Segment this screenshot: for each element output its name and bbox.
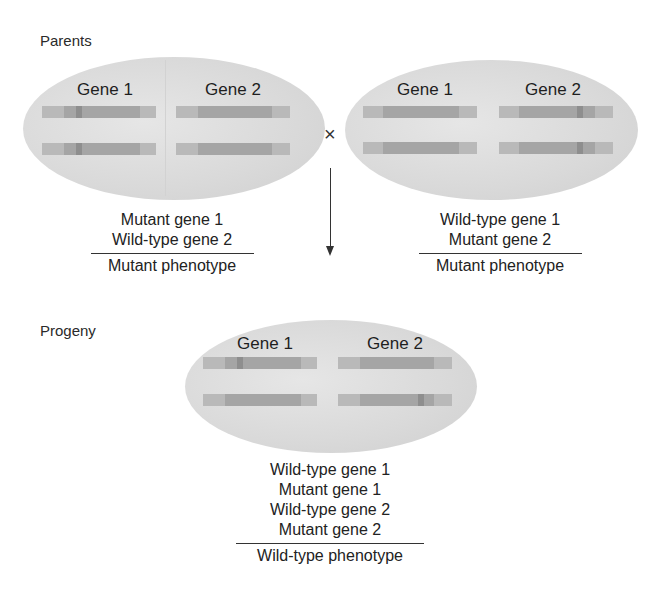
parent-1-gene-1-title: Gene 1	[50, 80, 160, 100]
genotype-line: Mutant gene 2	[414, 230, 586, 250]
genotype-line: Mutant gene 1	[86, 210, 258, 230]
mutation-mark	[76, 143, 82, 155]
parent-1-gene-1-chromosome-a	[42, 106, 156, 118]
phenotype: Mutant phenotype	[414, 256, 586, 276]
progeny-gene-1-title: Gene 1	[210, 334, 320, 354]
cross-symbol: ×	[324, 123, 336, 146]
genotype-line: Wild-type gene 1	[414, 210, 586, 230]
parent-1-genotype: Mutant gene 1 Wild-type gene 2 Mutant ph…	[86, 210, 258, 276]
progeny-gene-2-chromosome-a	[338, 357, 452, 369]
parents-label: Parents	[40, 32, 92, 49]
parent-1-gene-1-chromosome-b	[42, 143, 156, 155]
parent-2-genotype: Wild-type gene 1 Mutant gene 2 Mutant ph…	[414, 210, 586, 276]
parent-1-gene-2-chromosome-a	[176, 106, 290, 118]
parent-1-divider	[165, 60, 166, 196]
genotype-line: Mutant gene 2	[230, 520, 430, 540]
parent-2-gene-2-chromosome-a	[499, 106, 613, 118]
mutation-mark	[76, 106, 82, 118]
mutation-mark	[577, 142, 583, 154]
parent-2-gene-1-chromosome-a	[363, 106, 477, 118]
parent-1-cell	[23, 57, 325, 200]
arrow-down-icon	[326, 246, 334, 256]
parent-1-gene-2-title: Gene 2	[178, 80, 288, 100]
parent-2-gene-1-title: Gene 1	[370, 80, 480, 100]
progeny-genotype: Wild-type gene 1 Mutant gene 1 Wild-type…	[230, 460, 430, 566]
mutation-mark	[418, 394, 424, 406]
genotype-line: Mutant gene 1	[230, 480, 430, 500]
progeny-gene-1-chromosome-a	[203, 357, 317, 369]
mutation-mark	[577, 106, 583, 118]
arrow-line	[330, 168, 331, 248]
genotype-line: Wild-type gene 1	[230, 460, 430, 480]
progeny-gene-2-chromosome-b	[338, 394, 452, 406]
fraction-rule	[91, 253, 254, 254]
mutation-mark	[237, 357, 243, 369]
phenotype: Wild-type phenotype	[230, 546, 430, 566]
fraction-rule	[419, 253, 582, 254]
parent-2-gene-2-chromosome-b	[499, 142, 613, 154]
phenotype: Mutant phenotype	[86, 256, 258, 276]
genotype-line: Wild-type gene 2	[230, 500, 430, 520]
parent-2-gene-2-title: Gene 2	[498, 80, 608, 100]
progeny-gene-2-title: Gene 2	[340, 334, 450, 354]
genotype-line: Wild-type gene 2	[86, 230, 258, 250]
fraction-rule	[236, 543, 424, 544]
parent-1-gene-2-chromosome-b	[176, 143, 290, 155]
progeny-gene-1-chromosome-b	[203, 394, 317, 406]
progeny-label: Progeny	[40, 322, 96, 339]
parent-2-gene-1-chromosome-b	[363, 142, 477, 154]
